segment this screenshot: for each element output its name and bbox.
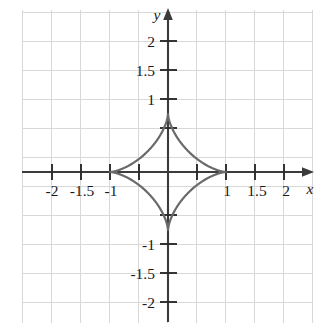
y-tick-label-minus-2: -2 [142,294,155,311]
figure-container: n [0,0,322,330]
y-tick-label-1-5: 1.5 [136,62,156,79]
y-tick-label-2: 2 [147,33,155,50]
x-tick-label-2: 2 [282,182,290,199]
coordinate-plot: -2 -1.5 -1 1 1.5 2 2 1.5 1 -1 -1.5 -2 x … [0,0,322,330]
x-tick-label-minus-1: -1 [105,182,118,199]
y-axis-label: y [152,6,161,23]
x-tick-label-1-5: 1.5 [247,182,267,199]
y-tick-label-minus-1: -1 [142,236,155,253]
plot-background [0,0,322,330]
x-tick-label-minus-1-5: -1.5 [70,182,95,199]
x-tick-label-1: 1 [223,182,231,199]
y-tick-label-minus-1-5: -1.5 [130,265,155,282]
y-tick-label-1: 1 [147,91,155,108]
x-axis-label: x [306,180,314,197]
x-tick-label-minus-2: -2 [46,182,59,199]
